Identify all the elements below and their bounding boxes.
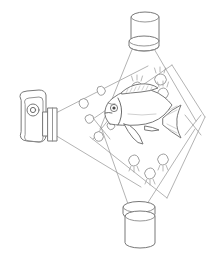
- suspended-particle: [94, 132, 104, 142]
- illuminated-particle: [155, 67, 167, 85]
- underwater-imaging-diagram: [0, 0, 210, 258]
- bottom-light-beam: [101, 127, 195, 204]
- camera[interactable]: [20, 90, 57, 142]
- fish[interactable]: [105, 84, 181, 144]
- suspended-particle: [85, 115, 94, 124]
- figure-canvas: [0, 0, 210, 258]
- suspended-particle: [79, 99, 89, 109]
- illuminated-particle: [145, 168, 156, 185]
- illuminated-particle: [158, 154, 169, 171]
- fish-mouth: [105, 113, 112, 114]
- illuminated-particle: [129, 155, 140, 172]
- fish-pectoral-fin: [124, 124, 143, 144]
- fish-pelvic-fin: [145, 126, 159, 131]
- bottom-light-source[interactable]: [123, 202, 155, 249]
- suspended-particle: [97, 86, 106, 95]
- top-light-source[interactable]: [129, 12, 159, 51]
